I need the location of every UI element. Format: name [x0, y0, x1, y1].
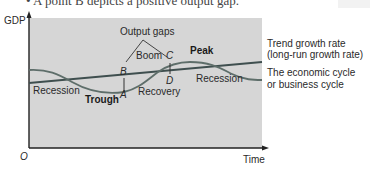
point-a-label: A [119, 89, 127, 100]
legend-trend-line1: Trend growth rate [267, 38, 346, 49]
point-d-label: D [166, 75, 173, 86]
point-b-label: B [120, 66, 127, 77]
origin-label: O [20, 151, 28, 162]
y-axis-label: GDP [4, 15, 26, 26]
trough-label: Trough [85, 94, 119, 105]
recovery-label: Recovery [138, 86, 180, 97]
y-axis-arrow-icon [27, 11, 32, 18]
point-c-label: C [166, 50, 174, 61]
legend-trend-line2: (long-run growth rate) [267, 49, 363, 60]
business-cycle-diagram: GDP Time O Output gaps Boom Peak Recessi… [0, 0, 370, 170]
output-gaps-label: Output gaps [120, 26, 174, 37]
recession-right-label: Recession [196, 73, 243, 84]
x-axis-arrow-icon [262, 146, 269, 151]
x-axis-label: Time [243, 154, 265, 165]
legend-cycle-line1: The economic cycle [267, 67, 356, 78]
legend-cycle-line2: or business cycle [267, 79, 344, 90]
boom-label: Boom [136, 50, 162, 61]
recession-left-label: Recession [33, 85, 80, 96]
peak-label: Peak [190, 45, 214, 56]
